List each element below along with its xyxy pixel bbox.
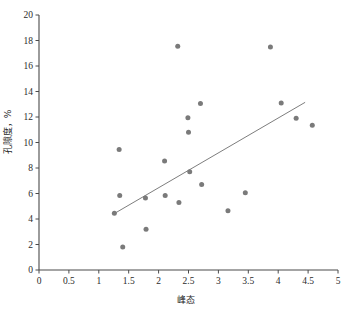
data-point xyxy=(144,227,149,232)
y-tick-label: 12 xyxy=(24,112,34,122)
y-tick-label: 0 xyxy=(28,265,33,275)
data-point xyxy=(279,100,284,105)
x-tick-label: 2 xyxy=(156,276,161,286)
x-tick-label: 3 xyxy=(216,276,221,286)
x-tick-label: 1.5 xyxy=(123,276,135,286)
y-tick-label: 2 xyxy=(28,240,33,250)
data-point xyxy=(162,158,167,163)
data-point xyxy=(112,211,117,216)
y-tick-label: 4 xyxy=(28,214,33,224)
x-tick-label: 3.5 xyxy=(242,276,254,286)
x-axis: 00.511.522.533.544.55 xyxy=(37,270,341,286)
x-tick-label: 1 xyxy=(96,276,101,286)
data-point xyxy=(310,123,315,128)
data-point xyxy=(225,208,230,213)
data-point xyxy=(120,245,125,250)
y-tick-label: 8 xyxy=(28,163,33,173)
regression-line xyxy=(114,102,305,214)
y-tick-label: 6 xyxy=(28,189,33,199)
data-point xyxy=(186,130,191,135)
chart-svg: 02468101214161820 00.511.522.533.544.55 … xyxy=(0,0,347,312)
data-point xyxy=(185,115,190,120)
x-tick-label: 2.5 xyxy=(183,276,195,286)
x-tick-label: 4.5 xyxy=(302,276,314,286)
data-point xyxy=(175,44,180,49)
y-tick-label: 16 xyxy=(24,61,34,71)
x-tick-label: 5 xyxy=(336,276,341,286)
data-point xyxy=(163,193,168,198)
x-tick-label: 0.5 xyxy=(63,276,75,286)
x-tick-label: 4 xyxy=(276,276,281,286)
scatter-chart: 02468101214161820 00.511.522.533.544.55 … xyxy=(0,0,347,312)
y-tick-label: 20 xyxy=(24,10,34,20)
data-points xyxy=(112,44,315,250)
y-tick-label: 18 xyxy=(24,36,34,46)
data-point xyxy=(294,116,299,121)
data-point xyxy=(268,44,273,49)
y-tick-label: 14 xyxy=(24,87,34,97)
y-tick-label: 10 xyxy=(24,138,34,148)
data-point xyxy=(199,182,204,187)
y-axis: 02468101214161820 xyxy=(24,10,40,275)
y-axis-title: 孔隙度，% xyxy=(2,109,13,154)
data-point xyxy=(176,200,181,205)
data-point xyxy=(243,190,248,195)
x-axis-title: 峰态 xyxy=(177,294,195,305)
x-tick-label: 0 xyxy=(37,276,42,286)
data-point xyxy=(143,195,148,200)
trend-line xyxy=(114,102,305,214)
data-point xyxy=(117,147,122,152)
data-point xyxy=(198,101,203,106)
data-point xyxy=(187,169,192,174)
data-point xyxy=(117,193,122,198)
